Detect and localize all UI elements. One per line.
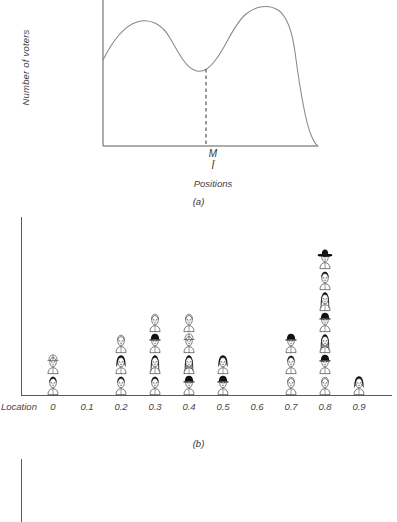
short-dark-hair-face-icon (110, 374, 132, 396)
long-hair-hands-face-icon (178, 353, 200, 375)
panel-a-x-axis-label: Positions (143, 178, 283, 189)
short-light-hair-face-icon (280, 374, 302, 396)
voter-stack-column (36, 353, 70, 395)
short-dark-hair-face-icon (314, 269, 336, 291)
figure-root: Number of voters M Ī Positions (a) 00.10… (0, 0, 397, 522)
voter-stack-column (308, 248, 342, 395)
short-dark-hair-face-icon (42, 374, 64, 396)
panel-a-median-label: M (183, 148, 243, 159)
panel-b-tick-label: 0.6 (240, 401, 274, 412)
panel-b-location-pictogram: 00.10.20.30.40.50.60.70.80.9 Location (0, 215, 397, 430)
panel-c-columns (0, 455, 397, 522)
cap-hat-face-icon (280, 332, 302, 354)
panel-a-voter-distribution-chart: Number of voters M Ī Positions (0, 0, 397, 215)
panel-b-tick-label: 0.4 (172, 401, 206, 412)
long-hair-face-icon (314, 290, 336, 312)
long-hair-hands-face-icon (314, 332, 336, 354)
panel-b-tick-label: 0 (36, 401, 70, 412)
panel-b-tick-label: 0.3 (138, 401, 172, 412)
short-light-hair-face-icon (178, 311, 200, 333)
panel-a-mean-label: Ī (183, 160, 243, 171)
short-dark-hair-face-icon (144, 374, 166, 396)
panel-b-tick-label: 0.2 (104, 401, 138, 412)
bob-dark-hair-face-icon (212, 353, 234, 375)
bob-dark-hair-face-icon (348, 374, 370, 396)
voter-stack-column (104, 332, 138, 395)
voter-stack-column (206, 353, 240, 395)
cap-hat-face-icon (144, 332, 166, 354)
panel-b-columns (0, 215, 397, 430)
voter-stack-column (172, 311, 206, 395)
helmet-hat-face-icon (178, 332, 200, 354)
cap-hat-face-icon (314, 311, 336, 333)
panel-c-location-pictogram-cropped (0, 455, 397, 522)
helmet-hat-face-icon (42, 353, 64, 375)
cap-hat-face-icon (314, 353, 336, 375)
panel-b-tick-label: 0.5 (206, 401, 240, 412)
voter-stack-column (274, 332, 308, 395)
short-light-hair-face-icon (314, 374, 336, 396)
bob-dark-hair-face-icon (110, 353, 132, 375)
long-hair-face-icon (144, 353, 166, 375)
panel-b-tick-label: 0.9 (342, 401, 376, 412)
voter-stack-column (138, 311, 172, 395)
cap-hat-face-icon (178, 374, 200, 396)
panel-b-tick-label: 0.1 (70, 401, 104, 412)
panel-a-caption: (a) (0, 196, 397, 207)
short-light-hair-face-icon (144, 311, 166, 333)
panel-b-caption: (b) (0, 438, 397, 449)
short-dark-hair-face-icon (280, 353, 302, 375)
voter-stack-column (342, 374, 376, 395)
cowboy-hat-face-icon (314, 248, 336, 270)
short-light-hair-face-icon (110, 332, 132, 354)
panel-a-density-curve (103, 7, 318, 146)
panel-b-tick-label: 0.7 (274, 401, 308, 412)
panel-b-axis-prefix-label: Location (1, 401, 37, 412)
cap-hat-face-icon (212, 374, 234, 396)
panel-b-tick-label: 0.8 (308, 401, 342, 412)
